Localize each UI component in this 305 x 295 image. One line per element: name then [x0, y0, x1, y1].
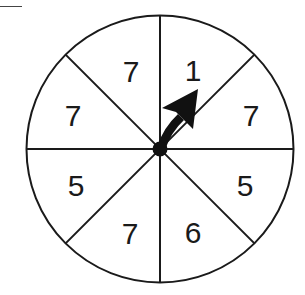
spinner-hub — [153, 142, 168, 157]
sector-label-bottom-right: 6 — [185, 216, 202, 249]
sector-label-bottom-left: 7 — [122, 217, 139, 250]
sector-label-top-left-upper: 7 — [123, 55, 140, 88]
sector-label-right-upper: 7 — [243, 99, 260, 132]
sector-label-left-upper: 7 — [65, 99, 82, 132]
sector-label-top-right-upper: 1 — [185, 54, 202, 87]
spinner-diagram: 7 1 7 5 6 7 5 7 — [0, 0, 305, 295]
sector-label-left-lower: 5 — [68, 169, 85, 202]
spinner-figure: 7 1 7 5 6 7 5 7 — [0, 0, 305, 295]
sector-label-right-lower: 5 — [237, 169, 254, 202]
